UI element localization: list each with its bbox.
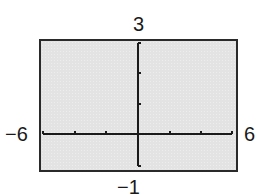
ymin-label: −1 — [117, 177, 140, 196]
xmax-label: 6 — [244, 124, 255, 144]
ymax-label: 3 — [133, 14, 144, 34]
xmin-label: −6 — [5, 124, 28, 144]
